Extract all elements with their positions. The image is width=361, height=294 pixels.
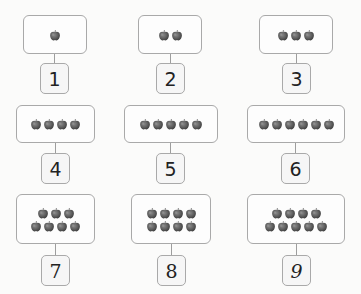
connector-line	[170, 54, 171, 63]
apple-icon	[277, 29, 289, 41]
apple-icon	[258, 118, 270, 130]
apple-row	[258, 118, 335, 130]
number-box-9: 9	[282, 255, 311, 286]
number-box-8: 8	[157, 255, 186, 286]
apple-icon	[30, 220, 42, 232]
apple-icon	[178, 118, 190, 130]
apple-icon	[277, 220, 289, 232]
connector-line	[55, 244, 56, 255]
apple-icon	[56, 220, 68, 232]
apple-row	[277, 29, 315, 41]
apple-card-5	[124, 105, 218, 143]
apple-icon	[152, 118, 164, 130]
apple-icon	[284, 118, 296, 130]
apple-icon	[185, 220, 197, 232]
apple-icon	[172, 220, 184, 232]
apple-row	[158, 29, 183, 41]
apple-icon	[191, 118, 203, 130]
apple-icon	[310, 207, 322, 219]
apple-icon	[159, 207, 171, 219]
apple-icon	[50, 207, 62, 219]
apple-card-6	[247, 105, 345, 143]
apple-icon	[158, 29, 170, 41]
number-box-3: 3	[282, 63, 311, 94]
apple-icon	[303, 220, 315, 232]
apple-card-4	[16, 105, 95, 143]
apple-card-8	[131, 194, 211, 244]
number-box-6: 6	[281, 153, 310, 184]
apple-icon	[271, 118, 283, 130]
apple-icon	[297, 207, 309, 219]
apple-icon	[30, 118, 42, 130]
apple-icon	[323, 118, 335, 130]
apple-card-9	[247, 194, 345, 244]
number-box-5: 5	[156, 153, 185, 184]
apple-icon	[43, 220, 55, 232]
apple-row	[37, 207, 75, 219]
apple-icon	[159, 220, 171, 232]
apple-card-7	[16, 194, 95, 244]
apple-icon	[69, 220, 81, 232]
apple-icon	[171, 29, 183, 41]
apple-icon	[271, 207, 283, 219]
apple-icon	[185, 207, 197, 219]
apple-icon	[172, 207, 184, 219]
apple-row	[146, 207, 197, 219]
apple-row	[146, 220, 197, 232]
apple-icon	[49, 29, 61, 41]
apple-icon	[297, 118, 309, 130]
connector-line	[170, 143, 171, 153]
connector-line	[295, 143, 296, 153]
number-box-4: 4	[41, 153, 70, 184]
apple-icon	[290, 220, 302, 232]
apple-row	[264, 220, 328, 232]
heading-instruction-text	[100, 0, 355, 3]
connector-line	[296, 54, 297, 63]
apple-icon	[139, 118, 151, 130]
apple-icon	[316, 220, 328, 232]
apple-card-2	[138, 15, 202, 54]
apple-icon	[264, 220, 276, 232]
apple-icon	[284, 207, 296, 219]
connector-line	[54, 54, 55, 63]
apple-icon	[146, 207, 158, 219]
apple-icon	[69, 118, 81, 130]
apple-icon	[146, 220, 158, 232]
apple-row	[271, 207, 322, 219]
apple-row	[139, 118, 203, 130]
connector-line	[296, 244, 297, 255]
apple-icon	[37, 207, 49, 219]
heading-bold-text	[0, 0, 78, 3]
apple-icon	[165, 118, 177, 130]
number-box-1: 1	[40, 63, 69, 94]
apple-row	[30, 118, 81, 130]
connector-line	[55, 143, 56, 153]
apple-icon	[310, 118, 322, 130]
apple-icon	[56, 118, 68, 130]
number-box-2: 2	[156, 63, 185, 94]
apple-icon	[43, 118, 55, 130]
apple-row	[30, 220, 81, 232]
apple-icon	[290, 29, 302, 41]
apple-row	[49, 29, 61, 41]
number-box-7: 7	[41, 255, 70, 286]
apple-card-3	[259, 15, 333, 54]
apple-card-1	[23, 15, 87, 54]
apple-icon	[63, 207, 75, 219]
cropped-heading	[0, 0, 361, 4]
apple-icon	[303, 29, 315, 41]
connector-line	[171, 244, 172, 255]
